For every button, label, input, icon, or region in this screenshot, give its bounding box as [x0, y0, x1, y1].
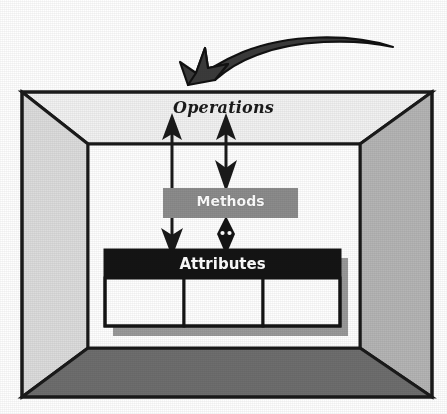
floor-surface: [22, 348, 432, 397]
curved-arrow-icon: [180, 37, 393, 85]
left-wall-surface: [22, 92, 88, 397]
attributes-label: Attributes: [105, 255, 340, 273]
operations-label: Operations: [0, 98, 447, 117]
attributes-cell-2[interactable]: [184, 278, 263, 326]
methods-label: Methods: [163, 193, 298, 209]
object-model-room-diagram: Operations Methods Attributes: [0, 0, 447, 414]
attributes-cell-3[interactable]: [263, 278, 340, 326]
attributes-cell-1[interactable]: [105, 278, 184, 326]
right-wall-surface: [360, 92, 432, 397]
